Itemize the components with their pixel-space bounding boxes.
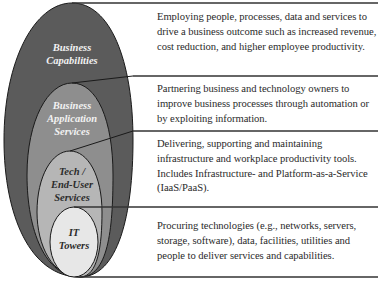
label-it-towers: IT Towers xyxy=(42,226,106,252)
label-business-application-services: Business Application Services xyxy=(22,99,122,138)
description-business-application-services: Partnering business and technology owner… xyxy=(157,82,379,126)
label-tech-end-user-services: Tech / End-User Services xyxy=(32,165,112,204)
label-business-capabilities: Business Capabilities xyxy=(22,41,122,67)
description-business-capabilities: Employing people, processes, data and se… xyxy=(157,10,379,54)
description-tech-end-user-services: Delivering, supporting and maintaining i… xyxy=(157,137,379,196)
description-it-towers: Procuring technologies (e.g., networks, … xyxy=(157,219,379,263)
